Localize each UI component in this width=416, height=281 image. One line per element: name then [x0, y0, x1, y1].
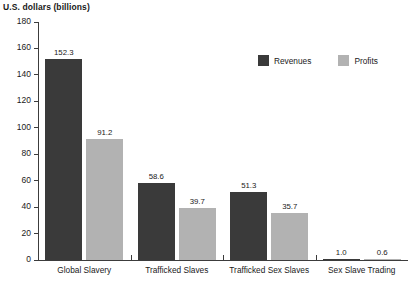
- bar-value-label: 35.7: [282, 202, 297, 211]
- bar-value-label: 39.7: [190, 197, 205, 206]
- y-axis-tick-label: 160: [17, 42, 31, 52]
- bar-value-label: 152.3: [54, 48, 74, 57]
- bar: 39.7: [179, 208, 216, 260]
- bar-value-label: 1.0: [336, 248, 347, 257]
- y-axis-tick-label: 100: [17, 122, 31, 132]
- y-axis-tick-label: 60: [22, 175, 31, 185]
- legend-item-revenues: Revenues: [258, 55, 311, 66]
- bar-value-label: 51.3: [241, 181, 256, 190]
- x-axis-category-label: Trafficked Sex Slaves: [229, 265, 309, 275]
- bar: 51.3: [230, 192, 267, 260]
- y-axis-tick-label: 120: [17, 95, 31, 105]
- legend-swatch: [338, 55, 349, 66]
- y-axis-tick-label: 20: [22, 228, 31, 238]
- bar-value-label: 0.6: [377, 248, 388, 257]
- y-axis-tick-label: 80: [22, 148, 31, 158]
- y-axis-tick-label: 140: [17, 69, 31, 79]
- legend-label: Revenues: [274, 56, 311, 66]
- bar-value-label: 58.6: [149, 172, 164, 181]
- bar: 58.6: [138, 183, 175, 260]
- legend-item-profits: Profits: [338, 55, 378, 66]
- x-axis-category-label: Global Slavery: [57, 265, 111, 275]
- chart-legend: RevenuesProfits: [258, 55, 378, 66]
- y-axis-title: U.S. dollars (billions): [3, 2, 90, 12]
- x-axis-category-label: Trafficked Slaves: [145, 265, 208, 275]
- bar: 0.6: [364, 259, 401, 261]
- bar-value-label: 91.2: [97, 128, 112, 137]
- legend-label: Profits: [354, 56, 378, 66]
- legend-swatch: [258, 55, 269, 66]
- x-axis-category-label: Sex Slave Trading: [328, 265, 395, 275]
- bar: 35.7: [271, 213, 308, 260]
- bar: 91.2: [86, 139, 123, 260]
- bar: 152.3: [45, 59, 82, 260]
- y-axis-tick-label: 40: [22, 201, 31, 211]
- y-axis-tick-label: 180: [17, 16, 31, 26]
- bar-chart: U.S. dollars (billions) 0204060801001201…: [0, 0, 416, 281]
- bar: 1.0: [323, 259, 360, 261]
- y-axis-tick-label: 0: [26, 254, 31, 264]
